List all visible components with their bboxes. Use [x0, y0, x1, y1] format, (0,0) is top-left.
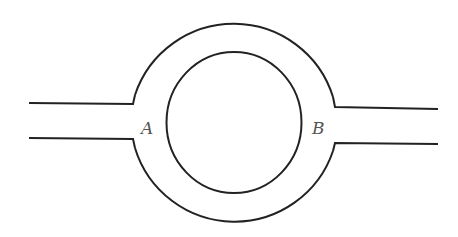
label-b: B: [311, 118, 325, 138]
outer-ring-lower-arc: [135, 148, 333, 222]
inner-circle: [167, 52, 302, 193]
left-pipe-lower-wall: [29, 138, 135, 148]
right-pipe-upper-wall: [333, 97, 438, 109]
ring-pipe-diagram: A B: [0, 0, 458, 237]
left-pipe-upper-wall: [29, 95, 135, 104]
right-pipe-lower-wall: [333, 143, 438, 151]
outer-ring-upper-arc: [135, 24, 333, 97]
label-a: A: [139, 118, 153, 138]
